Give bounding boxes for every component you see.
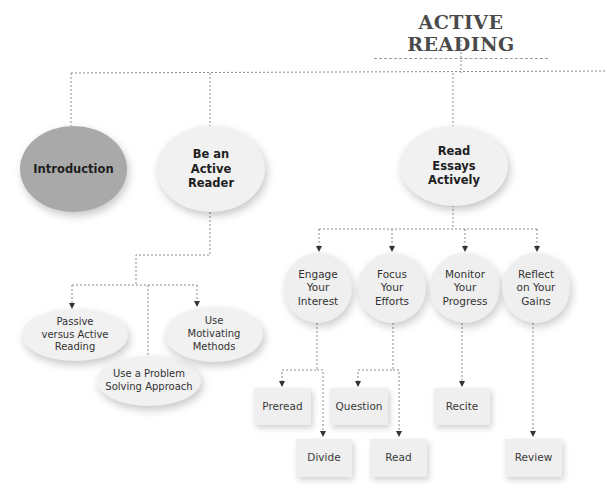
leaf-divide: Divide: [296, 439, 352, 477]
node-label: Reflect on Your Gains: [517, 268, 556, 308]
node-label: Introduction: [33, 162, 113, 177]
node-reflect-gains: Reflect on Your Gains: [502, 253, 570, 323]
diagram-title: ACTIVE READING: [374, 11, 548, 59]
node-label: Read Essays Actively: [428, 144, 480, 188]
node-introduction: Introduction: [20, 126, 127, 212]
leaf-recite: Recite: [434, 388, 490, 425]
concept-map: ACTIVE READING Introduction Be an Active…: [0, 0, 607, 503]
node-read-essays-actively: Read Essays Actively: [400, 126, 508, 206]
node-label: Be an Active Reader: [188, 147, 234, 191]
node-label: Use Motivating Methods: [188, 315, 241, 353]
node-label: Passive versus Active Reading: [41, 316, 108, 354]
node-motivating-methods: Use Motivating Methods: [165, 307, 263, 362]
node-label: Use a Problem Solving Approach: [105, 368, 192, 394]
leaf-review: Review: [505, 439, 562, 477]
node-problem-solving: Use a Problem Solving Approach: [97, 356, 201, 406]
node-label: Focus Your Efforts: [375, 268, 409, 308]
node-engage-interest: Engage Your Interest: [284, 253, 352, 323]
leaf-read: Read: [370, 439, 427, 477]
leaf-label: Review: [515, 451, 552, 464]
node-monitor-progress: Monitor Your Progress: [430, 253, 500, 323]
leaf-label: Recite: [446, 400, 479, 413]
leaf-label: Read: [385, 451, 411, 464]
node-passive-vs-active: Passive versus Active Reading: [22, 309, 128, 361]
leaf-preread: Preread: [254, 388, 311, 425]
node-be-active-reader: Be an Active Reader: [157, 126, 265, 212]
node-label: Monitor Your Progress: [443, 268, 488, 308]
leaf-label: Question: [336, 400, 383, 413]
node-label: Engage Your Interest: [298, 268, 338, 308]
leaf-question: Question: [330, 388, 388, 425]
connector-lines: [0, 0, 607, 503]
leaf-label: Preread: [262, 400, 302, 413]
leaf-label: Divide: [307, 451, 340, 464]
node-focus-efforts: Focus Your Efforts: [358, 253, 426, 323]
